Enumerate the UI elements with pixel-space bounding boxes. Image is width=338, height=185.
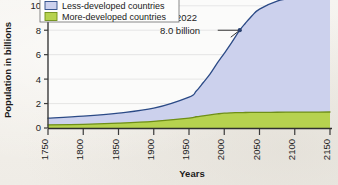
chart-legend[interactable]: Less-developed countries More-developed …	[40, 0, 179, 22]
legend-swatch-less-developed	[45, 2, 57, 10]
annotation-data-point-marker	[238, 28, 242, 32]
x-axis-tick-label: 1900	[145, 139, 156, 160]
x-axis-tick-label: 2050	[251, 139, 262, 160]
x-axis-tick-label: 2100	[286, 139, 297, 160]
y-axis-tick-label: 4	[36, 74, 41, 85]
legend-swatch-more-developed	[45, 13, 57, 21]
y-axis-tick-label: 0	[36, 122, 41, 133]
chart-canvas: 0246810 17501800185019001950200020502100…	[0, 0, 338, 185]
x-axis-ticks-group: 175018001850190019502000205021002150	[39, 129, 332, 160]
x-axis-title: Years	[179, 168, 204, 179]
legend-label-less-developed: Less-developed countries	[62, 1, 165, 11]
x-axis-tick-label: 1850	[110, 139, 121, 160]
population-growth-chart-figure: 0246810 17501800185019001950200020502100…	[0, 0, 338, 185]
x-axis-tick-label: 1800	[74, 139, 85, 160]
legend-label-more-developed: More-developed countries	[62, 12, 167, 22]
y-axis-tick-label: 2	[36, 98, 41, 109]
y-axis-title: Population in billions	[2, 22, 13, 118]
x-axis-tick-label: 1750	[39, 139, 50, 160]
x-axis-tick-label: 2150	[321, 139, 332, 160]
x-axis-tick-label: 2000	[215, 139, 226, 160]
y-axis-tick-label: 10	[30, 0, 41, 11]
y-axis-tick-label: 6	[36, 49, 41, 60]
y-axis-tick-label: 8	[36, 25, 41, 36]
x-axis-tick-label: 1950	[180, 139, 191, 160]
annotation-value-label: 8.0 billion	[160, 25, 200, 36]
